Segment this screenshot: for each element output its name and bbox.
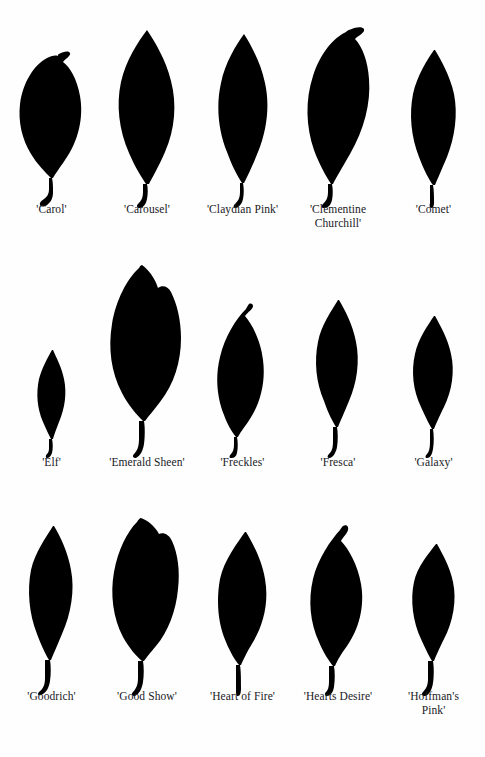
- good-show-leaf-icon: [109, 518, 185, 696]
- leaf-specimen: [293, 518, 384, 696]
- leaf-label: 'Emerald Sheen': [102, 455, 193, 469]
- leaf-specimen: [293, 262, 384, 458]
- leaf-label-row: 'Carol' 'Carousel' 'Claydian Pink' 'Clem…: [0, 202, 485, 230]
- leaf-silhouette-plate: 'Carol' 'Carousel' 'Claydian Pink' 'Clem…: [0, 0, 485, 757]
- leaf-label: 'Clementine Churchill': [293, 202, 384, 230]
- fresca-leaf-icon: [312, 298, 364, 458]
- leaf-specimen: [388, 262, 479, 458]
- leaf-label: 'Hoffman's Pink': [388, 689, 479, 717]
- leaf-row: [0, 28, 485, 208]
- leaf-specimen: [6, 262, 97, 458]
- carol-leaf-icon: [15, 36, 89, 208]
- galaxy-leaf-icon: [409, 312, 459, 458]
- leaf-label: 'Claydian Pink': [197, 202, 288, 230]
- freckles-leaf-icon: [215, 300, 271, 458]
- leaf-row: [0, 262, 485, 458]
- leaf-label: 'Heart of Fire': [197, 689, 288, 717]
- leaf-specimen: [197, 262, 288, 458]
- leaf-specimen: [102, 28, 193, 208]
- leaf-label: 'Hearts Desire': [293, 689, 384, 717]
- leaf-label: 'Freckles': [197, 455, 288, 469]
- leaf-specimen: [388, 28, 479, 208]
- leaf-label: 'Carol': [6, 202, 97, 230]
- leaf-label: 'Galaxy': [388, 455, 479, 469]
- comet-leaf-icon: [405, 40, 463, 208]
- hoffmans-pink-leaf-icon: [409, 534, 459, 696]
- leaf-label: 'Fresca': [293, 455, 384, 469]
- leaf-specimen: [6, 28, 97, 208]
- claydian-pink-leaf-icon: [212, 32, 274, 208]
- leaf-specimen: [102, 518, 193, 696]
- goodrich-leaf-icon: [26, 524, 78, 696]
- leaf-label: 'Carousel': [102, 202, 193, 230]
- heart-of-fire-leaf-icon: [214, 528, 272, 696]
- leaf-specimen: [197, 28, 288, 208]
- hearts-desire-leaf-icon: [307, 524, 369, 696]
- leaf-specimen: [6, 518, 97, 696]
- leaf-specimen: [102, 262, 193, 458]
- leaf-label: 'Comet': [388, 202, 479, 230]
- carousel-leaf-icon: [111, 28, 183, 208]
- leaf-label: 'Goodrich': [6, 689, 97, 717]
- leaf-label-row: 'Elf' 'Emerald Sheen' 'Freckles' 'Fresca…: [0, 455, 485, 469]
- leaf-row: [0, 518, 485, 696]
- leaf-label-row: 'Goodrich' 'Good Show' 'Heart of Fire' '…: [0, 689, 485, 717]
- clementine-churchill-leaf-icon: [302, 26, 374, 208]
- leaf-label: 'Good Show': [102, 689, 193, 717]
- leaf-label: 'Elf': [6, 455, 97, 469]
- leaf-specimen: [388, 518, 479, 696]
- emerald-sheen-leaf-icon: [106, 262, 188, 458]
- leaf-specimen: [197, 518, 288, 696]
- elf-leaf-icon: [34, 346, 70, 458]
- leaf-specimen: [293, 28, 384, 208]
